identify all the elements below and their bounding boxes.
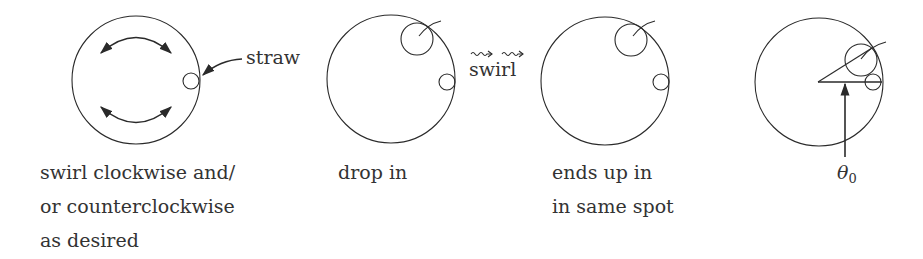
- angled-radius-line: [818, 48, 872, 82]
- panel-ends-up: [541, 17, 669, 145]
- caption-line: drop in: [338, 155, 407, 189]
- caption-drop-in: drop in: [338, 155, 407, 189]
- caption-line: as desired: [40, 223, 235, 257]
- swirl-transition-label: swirl: [469, 52, 516, 86]
- caption-line: or counterclockwise: [40, 189, 235, 223]
- straw-circle: [183, 73, 199, 89]
- object-circle: [845, 44, 877, 76]
- theta-subscript: 0: [848, 171, 856, 186]
- clockwise-arrow-icon: [101, 38, 171, 54]
- cup-circle: [541, 17, 669, 145]
- straw-pointer-arrow-icon: [203, 59, 242, 75]
- caption-line: swirl clockwise and/: [40, 155, 235, 189]
- straw-circle: [439, 74, 455, 90]
- straw-label: straw: [246, 40, 300, 74]
- cup-circle: [327, 15, 455, 143]
- cup-circle: [72, 16, 200, 144]
- caption-ends-up: ends up in in same spot: [552, 155, 674, 223]
- caption-line: in same spot: [552, 189, 674, 223]
- straw-circle: [653, 74, 669, 90]
- panel-angle: [755, 18, 886, 157]
- counterclockwise-arrow-icon: [101, 107, 171, 123]
- swirl-label-text: swirl: [469, 52, 516, 86]
- straw-label-text: straw: [246, 40, 300, 74]
- panel-swirl-setup: [72, 16, 242, 144]
- caption-line: ends up in: [552, 155, 674, 189]
- object-stem: [633, 21, 655, 36]
- object-circle: [615, 24, 647, 56]
- theta-zero-label: θ0: [837, 155, 857, 196]
- dropped-object-circle: [401, 23, 433, 55]
- theta-symbol: θ: [837, 161, 848, 183]
- panel-drop-in: [327, 15, 455, 143]
- caption-swirl-setup: swirl clockwise and/ or counterclockwise…: [40, 155, 235, 257]
